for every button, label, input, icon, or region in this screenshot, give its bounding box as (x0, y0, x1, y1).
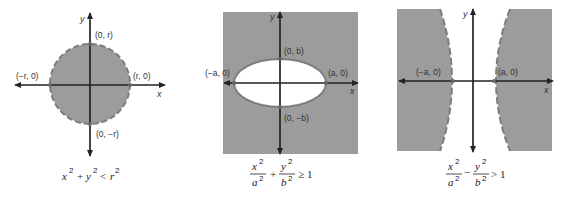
svg-text:2: 2 (259, 157, 264, 166)
x-axis-label: x (156, 89, 162, 99)
ellipse-panel: y x (0, b) (0, −b) (−a, 0) (a, 0) x 2 a … (205, 12, 358, 188)
svg-text:x: x (251, 160, 257, 172)
svg-text:+: + (270, 168, 276, 180)
circle-inequality: x 2 + y 2 < r 2 (61, 166, 120, 182)
point-right: (r, 0) (133, 71, 151, 81)
y-axis-label: y (79, 14, 85, 24)
svg-text:2: 2 (115, 166, 120, 175)
point-left: (−a, 0) (416, 67, 441, 77)
point-right: (a, 0) (498, 67, 518, 77)
y-axis-label: y (269, 12, 275, 22)
svg-text:+: + (77, 170, 83, 182)
ellipse-inequality: x 2 a 2 + y 2 b 2 ≥ 1 (250, 157, 313, 188)
svg-text:2: 2 (455, 157, 460, 166)
svg-text:1: 1 (500, 168, 506, 180)
svg-text:2: 2 (69, 166, 74, 175)
svg-text:y: y (474, 160, 480, 172)
svg-text:−: − (464, 166, 470, 178)
svg-text:2: 2 (93, 166, 98, 175)
point-left: (−r, 0) (16, 71, 39, 81)
hyperbola-left-region (397, 9, 452, 151)
svg-text:a: a (448, 176, 454, 188)
x-axis-label: x (349, 86, 355, 96)
x-axis-label: x (543, 85, 549, 95)
svg-text:<: < (100, 170, 106, 182)
svg-text:≥: ≥ (298, 168, 304, 180)
point-bottom: (0, −b) (284, 113, 309, 123)
point-top: (0, b) (284, 46, 304, 56)
svg-text:2: 2 (482, 157, 487, 166)
point-top: (0, r) (95, 30, 113, 40)
hyperbola-right-region (496, 9, 552, 151)
svg-text:2: 2 (288, 174, 293, 183)
circle-panel: y x (0, r) (0, −r) (−r, 0) (r, 0) x 2 + … (15, 13, 165, 182)
svg-text:2: 2 (455, 174, 460, 183)
svg-text:a: a (252, 176, 258, 188)
svg-text:x: x (61, 170, 67, 182)
point-left: (−a, 0) (205, 68, 230, 78)
svg-text:b: b (475, 176, 481, 188)
svg-text:x: x (447, 160, 453, 172)
point-bottom: (0, −r) (96, 129, 119, 139)
point-right: (a, 0) (328, 68, 348, 78)
svg-text:2: 2 (482, 174, 487, 183)
svg-text:2: 2 (288, 157, 293, 166)
svg-text:y: y (85, 170, 91, 182)
svg-text:1: 1 (307, 168, 313, 180)
svg-text:2: 2 (259, 174, 264, 183)
inequality-regions-figure: y x (0, r) (0, −r) (−r, 0) (r, 0) x 2 + … (0, 0, 562, 211)
y-axis-label: y (462, 9, 468, 19)
hyperbola-inequality: x 2 a 2 − y 2 b 2 > 1 (446, 157, 506, 188)
svg-text:y: y (280, 160, 286, 172)
svg-text:>: > (491, 168, 497, 180)
svg-text:b: b (281, 176, 287, 188)
hyperbola-panel: y x (−a, 0) (a, 0) x 2 a 2 − y 2 b 2 > 1 (397, 9, 553, 188)
